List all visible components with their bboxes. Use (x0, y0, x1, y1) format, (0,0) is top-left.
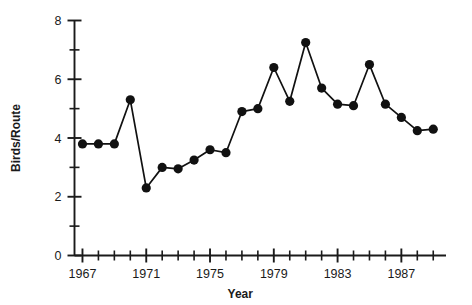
data-point-1974 (189, 155, 198, 164)
data-point-1982 (317, 83, 326, 92)
x-tick-label-1975: 1975 (196, 267, 224, 281)
x-tick-label-1971: 1971 (132, 267, 160, 281)
x-tick-label-1967: 1967 (69, 267, 97, 281)
x-tick-label-1983: 1983 (324, 267, 352, 281)
data-point-1972 (158, 163, 167, 172)
y-axis (68, 21, 82, 256)
data-point-1983 (333, 100, 342, 109)
data-point-1977 (237, 107, 246, 116)
y-tick-label-4: 4 (55, 132, 62, 146)
data-point-1973 (174, 164, 183, 173)
data-point-1970 (126, 95, 135, 104)
data-point-1975 (205, 145, 214, 154)
x-tick-label-1987: 1987 (387, 267, 415, 281)
data-point-1985 (365, 60, 374, 69)
x-axis-tick-labels: 196719711975197919831987 (69, 267, 416, 281)
y-tick-label-8: 8 (55, 14, 62, 28)
data-point-1971 (142, 183, 151, 192)
x-axis (75, 249, 447, 263)
data-point-1969 (110, 139, 119, 148)
data-point-1987 (397, 113, 406, 122)
y-tick-label-0: 0 (55, 249, 62, 263)
data-point-1981 (301, 38, 310, 47)
y-axis-title: Birds/Route (9, 104, 23, 172)
series-line-birds-per-route (82, 43, 433, 188)
data-point-1979 (269, 63, 278, 72)
chart-page: 02468 196719711975197919831987 Birds/Rou… (0, 0, 472, 305)
data-point-1986 (381, 100, 390, 109)
data-point-1967 (78, 139, 87, 148)
data-point-1968 (94, 139, 103, 148)
data-point-1989 (429, 125, 438, 134)
y-tick-label-6: 6 (55, 73, 62, 87)
data-point-1976 (221, 148, 230, 157)
y-tick-label-2: 2 (55, 190, 62, 204)
data-point-1980 (285, 97, 294, 106)
y-axis-tick-labels: 02468 (55, 14, 62, 263)
data-point-1978 (253, 104, 262, 113)
series-markers-birds-per-route (78, 38, 438, 193)
data-point-1984 (349, 101, 358, 110)
x-axis-title: Year (228, 287, 254, 301)
x-tick-label-1979: 1979 (260, 267, 288, 281)
data-point-1988 (413, 126, 422, 135)
line-chart: 02468 196719711975197919831987 Birds/Rou… (0, 0, 472, 305)
